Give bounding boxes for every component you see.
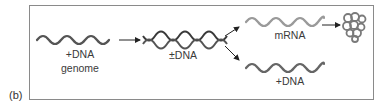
genome-label-line2: genome [55,63,105,74]
new-dna-label: +DNA [265,76,315,87]
mrna-label: mRNA [265,30,315,41]
arrow-dsdna-to-dna [225,46,239,60]
genome-label-line1: +DNA [55,49,105,60]
arrow-dsdna-to-mrna [225,27,239,36]
double-helix-icon [143,32,227,49]
new-dna-strand-icon [246,63,324,72]
genome-label: +DNA genome [55,49,105,74]
genome-strand-icon [37,36,109,44]
dsdna-label: ±DNA [158,50,208,61]
protein-icon [343,13,366,42]
mrna-strand-icon [246,17,324,26]
